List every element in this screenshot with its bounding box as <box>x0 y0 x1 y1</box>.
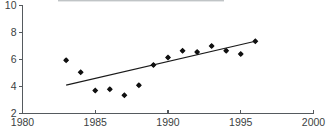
y-tick-label-6: 6 <box>11 53 17 65</box>
data-point <box>78 69 84 75</box>
chart-figure: 24681019801985199019952000 <box>0 0 327 131</box>
x-tick-label-1985: 1985 <box>84 116 108 128</box>
data-marker-core <box>93 89 97 93</box>
trend-line <box>66 41 255 85</box>
trend-line-group <box>66 41 255 85</box>
x-tick-label-1980: 1980 <box>11 116 35 128</box>
data-marker-core <box>108 87 112 91</box>
data-marker-core <box>79 70 83 74</box>
tick-label-group: 24681019801985199019952000 <box>5 0 326 128</box>
data-point <box>107 86 113 92</box>
scan-artifact <box>58 0 224 1</box>
data-point <box>121 92 127 98</box>
data-marker-core <box>152 63 156 67</box>
data-marker-core <box>64 58 68 62</box>
data-marker-core <box>137 83 141 87</box>
data-point <box>252 38 258 44</box>
data-point <box>136 82 142 88</box>
data-point <box>165 54 171 60</box>
y-tick-label-4: 4 <box>11 80 17 92</box>
data-point <box>238 51 244 57</box>
data-point <box>92 88 98 94</box>
x-tick-label-1995: 1995 <box>229 116 253 128</box>
y-tick-label-8: 8 <box>11 26 17 38</box>
chart-canvas: 24681019801985199019952000 <box>0 0 327 131</box>
data-marker-core <box>195 50 199 54</box>
x-tick-label-2000: 2000 <box>302 116 326 128</box>
data-point <box>150 62 156 68</box>
data-marker-core <box>224 49 228 53</box>
data-marker-core <box>210 44 214 48</box>
data-marker-core <box>181 49 185 53</box>
data-marker-core <box>122 93 126 97</box>
data-point <box>63 57 69 63</box>
data-marker-core <box>253 39 257 43</box>
y-tick-label-10: 10 <box>5 0 17 11</box>
data-marker-core <box>166 56 170 60</box>
tick-group <box>19 6 314 114</box>
data-point <box>180 48 186 54</box>
data-point <box>209 43 215 49</box>
x-tick-label-1990: 1990 <box>156 116 180 128</box>
data-marker-core <box>239 52 243 56</box>
